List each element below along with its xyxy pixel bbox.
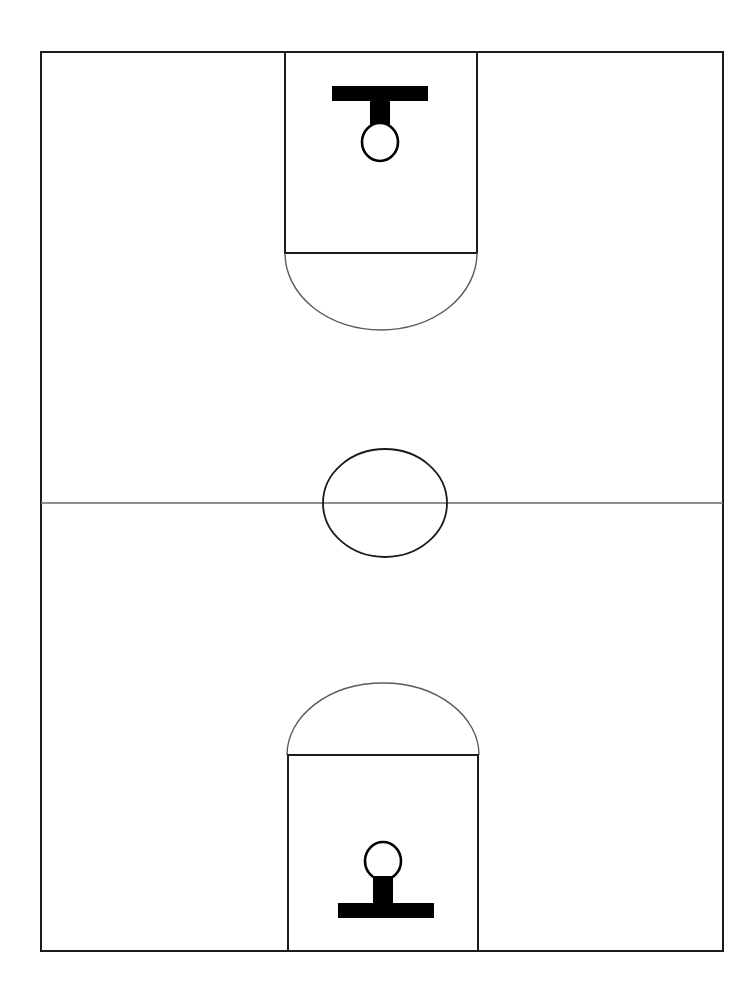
- top-backboard-icon: [332, 86, 428, 101]
- top-hoop-icon: [362, 123, 398, 161]
- court-diagram-canvas: [0, 0, 740, 1002]
- bottom-hoop-stem-icon: [373, 876, 393, 904]
- basketball-court-svg: [0, 0, 740, 1002]
- bottom-hoop-icon: [365, 842, 401, 880]
- bottom-backboard-icon: [338, 903, 434, 918]
